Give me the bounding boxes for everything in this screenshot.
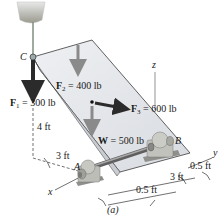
force-f2-label: F2 = 400 lb — [56, 81, 102, 93]
axis-y-label: y — [213, 148, 217, 158]
point-c-label: C — [20, 52, 27, 62]
ceiling-mount-icon — [17, 2, 45, 23]
dimension-0-5ft-top: 0.5 ft — [190, 161, 211, 171]
dimension-3ft-right: 3 ft — [170, 172, 184, 182]
axis-z-label: z — [152, 60, 156, 70]
point-b-label: B — [175, 136, 181, 146]
force-f1-label: F1 = 300 lb — [10, 98, 56, 110]
diagram-graphics — [0, 0, 223, 222]
weight-label: W = 500 lb — [98, 136, 144, 146]
dimension-0-5ft-bottom: 0.5 ft — [136, 185, 157, 195]
force-application-point — [90, 100, 94, 104]
axis-x-label: x — [48, 187, 52, 197]
point-c-marker — [30, 54, 36, 60]
dimension-3ft-left: 3 ft — [56, 151, 70, 161]
dimension-4ft: 4 ft — [37, 122, 51, 132]
statics-diagram: C A B z x y F1 = 300 lb F2 = 400 lb F3 =… — [0, 0, 223, 222]
point-a-label: A — [74, 162, 80, 172]
figure-caption: (a) — [107, 205, 119, 215]
force-f3-label: F3 = 600 lb — [131, 104, 177, 116]
